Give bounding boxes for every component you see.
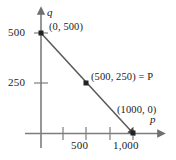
x-tick-label-1000: 1,000 xyxy=(113,140,139,151)
point-0-500 xyxy=(39,31,44,36)
annotation-y-intercept: (0, 500) xyxy=(49,22,83,33)
x-axis-label: p xyxy=(150,114,156,125)
y-tick-label-250: 250 xyxy=(8,77,25,88)
point-500-250 xyxy=(84,81,89,86)
x-tick-label-500: 500 xyxy=(71,140,88,151)
line-graph-figure: 500 250 500 1,000 (0, 500) (500, 250) = … xyxy=(0,0,176,160)
y-axis-label: q xyxy=(47,7,53,18)
point-1000-0 xyxy=(131,131,136,136)
annotation-midpoint-p: (500, 250) = P xyxy=(91,72,153,83)
y-tick-label-500: 500 xyxy=(8,27,25,38)
